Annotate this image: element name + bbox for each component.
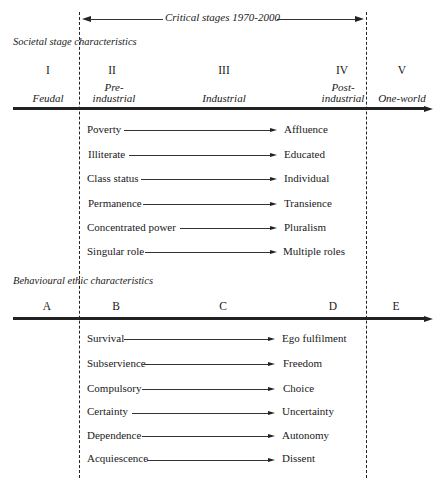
axis-arrow-head-icon bbox=[424, 316, 433, 322]
transition-from: Compulsory bbox=[87, 382, 141, 394]
transition-arrow-head-icon bbox=[270, 226, 277, 230]
transition-arrow-head-icon bbox=[270, 153, 277, 157]
transition-arrow-line bbox=[129, 155, 270, 156]
transition-to: Ego fulfilment bbox=[282, 332, 346, 344]
transition-arrow-line bbox=[142, 389, 268, 390]
behavioural-stage-letter: E bbox=[376, 300, 416, 312]
transition-to: Individual bbox=[284, 172, 329, 184]
transition-to: Multiple roles bbox=[283, 245, 345, 257]
transition-from: Concentrated power bbox=[87, 221, 176, 233]
transition-arrow-head-icon bbox=[270, 177, 277, 181]
critical-arrow-line-left bbox=[88, 19, 163, 20]
transition-to: Freedom bbox=[283, 357, 322, 369]
transition-arrow-head-icon bbox=[268, 434, 275, 438]
societal-stage-name: Feudal bbox=[18, 93, 78, 104]
behavioural-stage-letter: B bbox=[96, 300, 136, 312]
behavioural-timeline-axis bbox=[13, 317, 425, 320]
societal-stage-name: Pre- industrial bbox=[84, 82, 144, 104]
societal-stage-num: III bbox=[204, 64, 244, 76]
transition-arrow-line bbox=[180, 228, 270, 229]
transition-from: Acquiescence bbox=[87, 452, 148, 464]
transition-to: Uncertainty bbox=[282, 405, 334, 417]
societal-timeline-axis bbox=[13, 107, 425, 110]
transition-from: Certainty bbox=[87, 405, 128, 417]
transition-arrow-line bbox=[132, 413, 268, 414]
critical-stages-label: Critical stages 1970-2000 bbox=[165, 11, 280, 23]
left-critical-boundary bbox=[79, 12, 80, 478]
stage-name-line: industrial bbox=[84, 93, 144, 104]
transition-arrow-head-icon bbox=[268, 411, 275, 415]
transition-to: Educated bbox=[284, 148, 325, 160]
societal-section-title: Societal stage characteristics bbox=[13, 36, 137, 47]
stage-name-line: industrial bbox=[313, 93, 373, 104]
transition-arrow-head-icon bbox=[268, 362, 275, 366]
transition-arrow-head-icon bbox=[270, 202, 277, 206]
behavioural-section-title: Behavioural ethic characteristics bbox=[13, 275, 153, 286]
societal-stage-num: V bbox=[382, 64, 422, 76]
transition-from: Permanence bbox=[88, 197, 142, 209]
transition-from: Illiterate bbox=[88, 148, 125, 160]
transition-arrow-line bbox=[143, 364, 268, 365]
societal-stage-num: I bbox=[28, 64, 68, 76]
behavioural-stage-letter: A bbox=[27, 300, 67, 312]
transition-from: Poverty bbox=[87, 123, 121, 135]
transition-to: Choice bbox=[283, 382, 314, 394]
societal-stage-name: Industrial bbox=[194, 93, 254, 104]
transition-arrow-line bbox=[124, 130, 270, 131]
transition-from: Class status bbox=[87, 172, 139, 184]
transition-from: Dependence bbox=[87, 429, 141, 441]
transition-arrow-line bbox=[147, 460, 268, 461]
societal-stage-name: Post- industrial bbox=[313, 82, 373, 104]
behavioural-stage-letter: D bbox=[313, 300, 353, 312]
axis-arrow-head-icon bbox=[424, 106, 433, 112]
transition-arrow-line bbox=[124, 339, 268, 340]
transition-to: Transience bbox=[284, 197, 332, 209]
transition-from: Singular role bbox=[87, 245, 144, 257]
societal-stage-name: One-world bbox=[372, 93, 432, 104]
transition-arrow-head-icon bbox=[270, 128, 277, 132]
transition-to: Autonomy bbox=[282, 429, 329, 441]
transition-to: Pluralism bbox=[284, 221, 326, 233]
arrow-right-head-icon bbox=[355, 16, 364, 22]
societal-stage-num: II bbox=[92, 64, 132, 76]
transition-arrow-line bbox=[143, 204, 270, 205]
transition-from: Subservience bbox=[87, 357, 146, 369]
societal-stage-num: IV bbox=[322, 64, 362, 76]
transition-arrow-head-icon bbox=[268, 337, 275, 341]
critical-arrow-line-right bbox=[277, 19, 357, 20]
transition-arrow-head-icon bbox=[268, 387, 275, 391]
transition-arrow-head-icon bbox=[268, 458, 275, 462]
transition-arrow-line bbox=[145, 252, 270, 253]
transition-from: Survival bbox=[87, 332, 124, 344]
transition-to: Affluence bbox=[284, 123, 328, 135]
transition-to: Dissent bbox=[282, 452, 315, 464]
behavioural-stage-letter: C bbox=[203, 300, 243, 312]
transition-arrow-line bbox=[141, 179, 270, 180]
transition-arrow-line bbox=[142, 436, 268, 437]
transition-arrow-head-icon bbox=[270, 250, 277, 254]
